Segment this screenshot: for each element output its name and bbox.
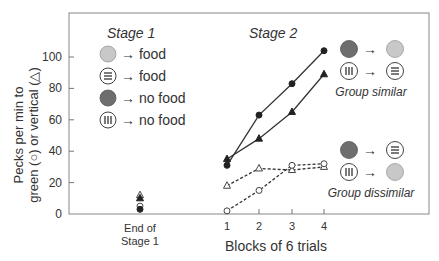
x-tick-label: 4 [321, 220, 327, 232]
arrow-icon: → [363, 41, 377, 57]
end-of-stage1-points [137, 191, 144, 212]
x-tick-label: 1 [224, 220, 230, 232]
group-legends: →→Group similar→→Group dissimilar [328, 41, 416, 201]
x-tick-label: 2 [256, 220, 262, 232]
horizontal-lines-circle-icon [100, 68, 116, 84]
group-legend-title: Group similar [335, 85, 407, 99]
light-gray-circle-icon [387, 41, 404, 58]
stage2-title: Stage 2 [249, 25, 297, 41]
arrow-icon: → [363, 142, 377, 158]
vertical-lines-circle-icon [341, 164, 358, 181]
y-tick-label: 80 [49, 81, 63, 95]
stage1-legend-label: → food [121, 68, 166, 84]
series-filled-triangle [224, 70, 328, 161]
data-series [224, 48, 328, 214]
light-gray-circle-icon [100, 46, 116, 62]
series-filled-circle [224, 48, 327, 169]
end-of-stage1-label: End of [124, 222, 157, 234]
y-tick-label: 60 [49, 113, 63, 127]
x-axis-label: Blocks of 6 trials [225, 238, 327, 254]
chart: Pecks per min to green (○) or vertical (… [0, 0, 439, 261]
legend-group-dissimilar: →→Group dissimilar [328, 142, 416, 201]
group-legend-title: Group dissimilar [328, 186, 416, 200]
horizontal-lines-circle-icon [387, 63, 404, 80]
stage1-legend-label: → no food [121, 112, 186, 128]
horizontal-lines-circle-icon [387, 142, 404, 159]
vertical-lines-circle-icon [100, 112, 116, 128]
dark-gray-circle-icon [100, 90, 116, 106]
stage1-legend-label: → no food [121, 90, 186, 106]
arrow-icon: → [363, 63, 377, 79]
y-axis-label: Pecks per min to green (○) or vertical (… [11, 67, 41, 203]
y-tick-label: 20 [49, 176, 63, 190]
y-tick-label: 100 [42, 50, 62, 64]
x-tick-label: 3 [289, 220, 295, 232]
arrow-icon: → [363, 164, 377, 180]
y-tick-label: 0 [55, 207, 62, 221]
light-gray-circle-icon [387, 164, 404, 181]
svg-text:green (○) or vertical (△): green (○) or vertical (△) [26, 67, 41, 203]
stage1-legend-label: → food [121, 46, 166, 62]
y-tick-label: 40 [49, 144, 63, 158]
dark-gray-circle-icon [341, 142, 358, 159]
stage1-title: Stage 1 [107, 25, 155, 41]
series-open-triangle [224, 163, 328, 188]
vertical-lines-circle-icon [341, 63, 358, 80]
svg-text:Pecks per min to: Pecks per min to [11, 87, 26, 184]
end-of-stage1-label-2: Stage 1 [121, 235, 159, 247]
stage1-legend: → food→ food→ no food→ no food [100, 46, 186, 128]
legend-group-similar: →→Group similar [335, 41, 407, 100]
dark-gray-circle-icon [341, 41, 358, 58]
x-axis-ticks: 1234 [224, 209, 327, 232]
